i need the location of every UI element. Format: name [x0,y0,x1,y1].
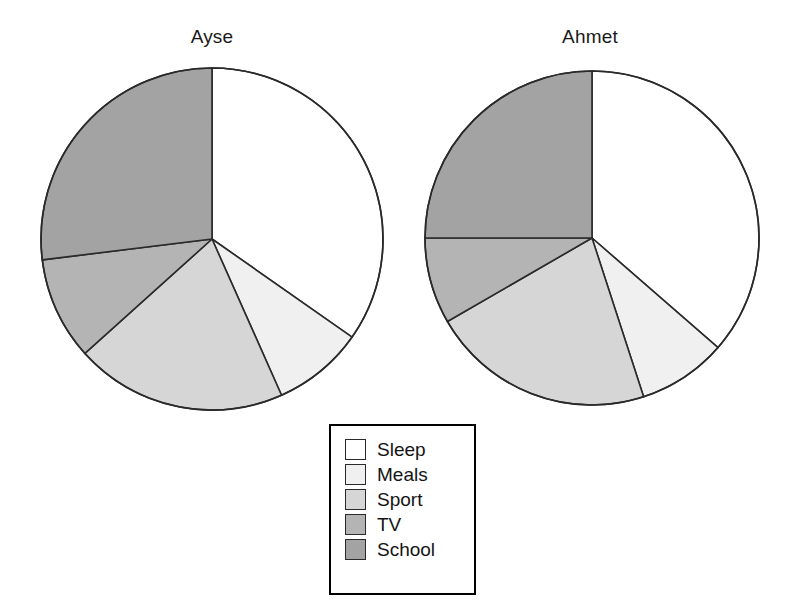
legend-item-school: School [331,537,474,562]
legend-item-meals: Meals [331,462,474,487]
pie-panel-ahmet: Ahmet [410,26,770,425]
pie-slice-school [41,68,212,260]
legend-swatch-sleep [345,439,366,460]
legend-label-meals: Meals [377,464,428,485]
legend-item-sport: Sport [331,487,474,512]
legend: SleepMealsSportTVSchool [329,424,476,595]
legend-list: SleepMealsSportTVSchool [331,437,474,562]
pie-svg-ayse [22,26,402,422]
legend-label-sport: Sport [377,489,422,510]
pie-slice-school [425,71,592,238]
legend-swatch-school [345,539,366,560]
legend-swatch-sport [345,489,366,510]
legend-swatch-meals [345,464,366,485]
legend-label-school: School [377,539,435,560]
legend-label-tv: TV [377,514,401,535]
legend-item-tv: TV [331,512,474,537]
pie-svg-ahmet [410,26,770,417]
pie-panel-ayse: Ayse [22,26,402,430]
pie-chart-figure: Ayse Ahmet SleepMealsSportTVSchool [0,0,787,614]
legend-swatch-tv [345,514,366,535]
legend-item-sleep: Sleep [331,437,474,462]
legend-label-sleep: Sleep [377,439,426,460]
